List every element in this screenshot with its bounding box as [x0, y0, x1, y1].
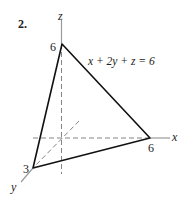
x-axis-label: x [172, 131, 177, 143]
plane-equation: x + 2y + z = 6 [88, 56, 155, 68]
z-axis-label: z [58, 10, 63, 22]
y-intercept-label: 3 [23, 163, 29, 175]
z-intercept-label: 6 [50, 41, 56, 53]
y-axis-label: y [11, 181, 16, 193]
x-intercept-label: 6 [148, 142, 154, 154]
y-axis-hidden [33, 121, 79, 168]
